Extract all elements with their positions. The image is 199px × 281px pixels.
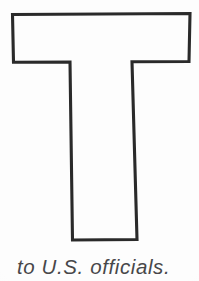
caption: to U.S. officials. bbox=[17, 258, 199, 281]
letter-t-outline-icon bbox=[0, 0, 199, 255]
scanned-page: to U.S. officials. bbox=[0, 0, 199, 281]
letterform-illustration bbox=[0, 0, 199, 255]
caption-text: to U.S. officials. bbox=[17, 258, 199, 277]
